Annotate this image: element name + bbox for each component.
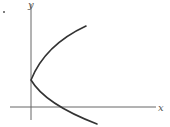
parabola-curve <box>31 26 97 124</box>
y-axis-label: y <box>27 0 34 10</box>
parabola-diagram: y x <box>0 0 170 127</box>
bullet-mark <box>3 11 5 13</box>
x-axis-label: x <box>158 102 164 113</box>
